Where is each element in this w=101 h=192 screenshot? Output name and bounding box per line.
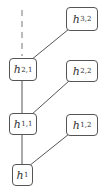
- node-h2-1: h2,1: [9, 58, 37, 81]
- edge-h21-h32: [31, 29, 69, 60]
- node-h3-2: h3,2: [66, 7, 98, 31]
- node-label-sub: 1: [24, 171, 28, 179]
- node-label-sub: 1,2: [80, 121, 91, 129]
- node-label-base: h: [16, 169, 23, 182]
- node-label-base: h: [73, 119, 80, 132]
- edge-h12-h1: [29, 134, 69, 166]
- edge-h22-h11: [31, 81, 69, 115]
- node-label-base: h: [73, 13, 80, 26]
- node-label-base: h: [14, 118, 21, 131]
- node-label-base: h: [73, 65, 80, 78]
- node-label-sub: 3,2: [80, 15, 91, 23]
- node-h1: h1: [12, 164, 33, 186]
- node-label-sub: 2,1: [21, 66, 32, 74]
- node-label-sub: 1,1: [21, 120, 32, 128]
- node-h2-2: h2,2: [66, 60, 98, 82]
- node-h1-2: h1,2: [66, 114, 98, 136]
- node-label-sub: 2,2: [80, 67, 91, 75]
- node-label-base: h: [14, 63, 21, 76]
- node-h1-1: h1,1: [9, 113, 37, 135]
